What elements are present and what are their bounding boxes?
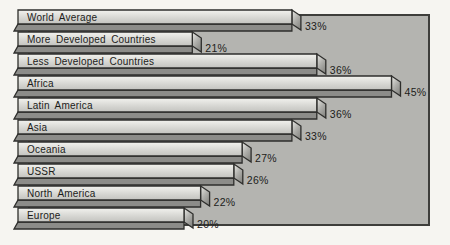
value-label: 26% — [247, 175, 269, 186]
bar-row — [14, 76, 404, 100]
bar-end-cap — [201, 186, 210, 206]
value-label: 36% — [330, 109, 352, 120]
bar-end-cap — [292, 120, 301, 140]
chart: World Average33%More Developed Countries… — [0, 0, 450, 245]
value-label: 20% — [197, 219, 219, 230]
bar-shadow — [14, 24, 292, 31]
bar-row — [14, 120, 304, 144]
bar-end-cap — [317, 54, 326, 74]
category-label: Europe — [27, 210, 60, 221]
category-label: North America — [27, 188, 95, 199]
bar-end-cap — [242, 142, 251, 162]
bar-front — [18, 76, 392, 90]
bar-shadow — [14, 46, 192, 53]
bar-end-cap — [184, 208, 193, 228]
category-label: Latin America — [27, 100, 93, 111]
bar-front — [18, 120, 292, 134]
category-label: Asia — [27, 122, 47, 133]
bar-end-cap — [392, 76, 401, 96]
bar-end-cap — [292, 10, 301, 30]
category-label: USSR — [27, 166, 56, 177]
category-label: Less Developed Countries — [27, 56, 154, 67]
category-label: Oceania — [27, 144, 66, 155]
value-label: 27% — [255, 153, 277, 164]
value-label: 36% — [330, 65, 352, 76]
bar-shadow — [14, 178, 234, 185]
bar-rows-container: World Average33%More Developed Countries… — [0, 0, 450, 245]
bar-end-cap — [317, 98, 326, 118]
bar-shadow — [14, 90, 392, 97]
bar-shadow — [14, 112, 317, 119]
value-label: 33% — [305, 21, 327, 32]
category-label: Africa — [27, 78, 54, 89]
bar-end-cap — [234, 164, 243, 184]
category-label: More Developed Countries — [27, 34, 156, 45]
bar-shadow — [14, 222, 184, 229]
category-label: World Average — [27, 12, 97, 23]
bar-end-cap — [192, 32, 201, 52]
bar-shadow — [14, 156, 242, 163]
bar-shadow — [14, 68, 317, 75]
bar-shadow — [14, 200, 201, 207]
value-label: 45% — [405, 87, 427, 98]
value-label: 22% — [214, 197, 236, 208]
bar-shadow — [14, 134, 292, 141]
value-label: 21% — [205, 43, 227, 54]
value-label: 33% — [305, 131, 327, 142]
